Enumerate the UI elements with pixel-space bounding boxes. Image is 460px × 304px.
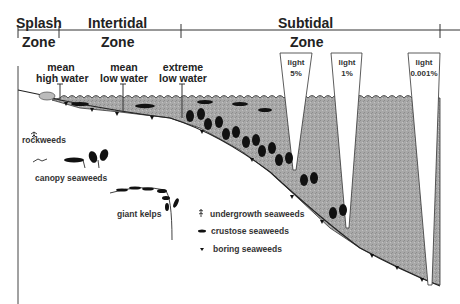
water-level-line1: mean: [36, 62, 86, 73]
boring-icon: [200, 248, 204, 251]
water-level-line2: low water: [157, 73, 209, 84]
splash-zone-label-2: Zone: [22, 35, 55, 49]
intertidal-zone-line1: Intertidal: [88, 16, 147, 30]
zone-axis: [18, 24, 460, 38]
splash-zone-line2: Zone: [22, 35, 55, 49]
water-body: [52, 96, 440, 286]
light-line1: light: [407, 57, 441, 68]
extreme-low-water-label: extreme low water: [157, 62, 209, 83]
light-0001-label: light 0.001%: [407, 57, 441, 79]
splash-zone-label: Splash: [16, 16, 62, 30]
canopy-seaweed-icons: [33, 148, 110, 168]
water-level-line1: mean: [99, 62, 149, 73]
water-level-line1: extreme: [157, 62, 209, 73]
light-line2: 5%: [282, 68, 310, 79]
legend-undergrowth-seaweeds: undergrowth seaweeds: [210, 209, 304, 219]
legend-rockweeds: rockweeds: [22, 135, 66, 145]
undergrowth-icon: [199, 209, 203, 217]
intertidal-zonation-diagram: [0, 0, 460, 304]
crustose-icon: [198, 230, 206, 233]
mean-high-water-label: mean high water: [36, 62, 86, 83]
legend-icons: [31, 132, 206, 251]
mean-low-water-label: mean low water: [99, 62, 149, 83]
legend-boring-seaweeds: boring seaweeds: [213, 244, 282, 254]
light-line2: 1%: [333, 68, 361, 79]
subtidal-zone-label: Subtidal: [278, 16, 333, 30]
intertidal-zone-label-2: Zone: [101, 35, 134, 49]
subtidal-zone-line2: Zone: [290, 35, 323, 49]
splash-zone-line1: Splash: [16, 16, 62, 30]
intertidal-zone-line2: Zone: [101, 35, 134, 49]
water-level-line2: high water: [36, 73, 86, 84]
intertidal-zone-label: Intertidal: [88, 16, 147, 30]
subtidal-zone-line1: Subtidal: [278, 16, 333, 30]
splash-rock: [39, 92, 55, 100]
light-5-label: light 5%: [282, 57, 310, 79]
water-level-line2: low water: [99, 73, 149, 84]
light-line1: light: [282, 57, 310, 68]
legend-canopy-seaweeds: canopy seaweeds: [35, 173, 107, 183]
legend-giant-kelps: giant kelps: [117, 209, 161, 219]
light-line1: light: [333, 57, 361, 68]
subtidal-zone-label-2: Zone: [290, 35, 323, 49]
light-1-label: light 1%: [333, 57, 361, 79]
light-line2: 0.001%: [407, 68, 441, 79]
legend-crustose-seaweeds: crustose seaweeds: [211, 226, 289, 236]
